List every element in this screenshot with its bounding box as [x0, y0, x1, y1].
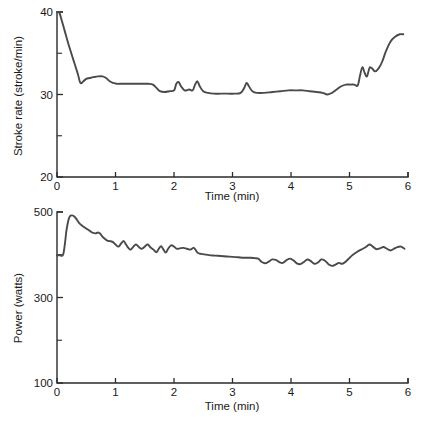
stroke-rate-svg: 0123456 203040 Time (min) Stroke rate (s…	[0, 0, 423, 205]
x-tick-labels: 0123456	[54, 386, 411, 398]
y-tick-label: 30	[40, 89, 53, 101]
x-tick-label: 6	[405, 180, 411, 192]
power-plot-area: 0123456 100300500	[34, 206, 411, 398]
y-tick-labels: 100300500	[34, 206, 53, 389]
chart-stroke-rate: 0123456 203040 Time (min) Stroke rate (s…	[0, 0, 423, 205]
power-svg: 0123456 100300500 Time (min) Power (watt…	[0, 198, 423, 424]
x-tick-label: 1	[112, 386, 118, 398]
data-line-stroke-rate	[57, 12, 403, 95]
x-tick-label: 2	[171, 386, 177, 398]
x-axis-title: Time (min)	[205, 400, 260, 412]
y-tick-label: 40	[40, 6, 53, 18]
y-tick-labels: 203040	[40, 6, 53, 183]
y-tick-label: 500	[34, 206, 53, 218]
figure-container: 0123456 203040 Time (min) Stroke rate (s…	[0, 0, 423, 424]
x-tick-label: 4	[288, 180, 295, 192]
y-tick-label: 100	[34, 377, 53, 389]
y-axis-title: Power (watts)	[12, 273, 24, 343]
x-tick-label: 1	[112, 180, 118, 192]
y-tick-label: 20	[40, 171, 53, 183]
x-tick-label: 0	[54, 180, 60, 192]
y-axis-title: Stroke rate (stroke/min)	[12, 36, 24, 156]
axis-ticks	[57, 212, 408, 383]
x-tick-label: 5	[346, 180, 352, 192]
data-line-power	[57, 215, 404, 265]
x-tick-label: 5	[346, 386, 352, 398]
x-tick-label: 0	[54, 386, 60, 398]
y-tick-label: 300	[34, 292, 53, 304]
x-tick-label: 2	[171, 180, 177, 192]
x-tick-label: 4	[288, 386, 295, 398]
x-tick-label: 6	[405, 386, 411, 398]
x-tick-label: 3	[229, 386, 235, 398]
chart-power: 0123456 100300500 Time (min) Power (watt…	[0, 198, 423, 424]
axes-lines	[57, 212, 408, 383]
stroke-rate-plot-area: 0123456 203040	[40, 6, 411, 192]
